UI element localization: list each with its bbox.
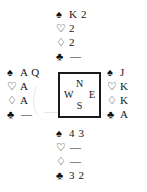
south-diamonds-row: ♢ —: [56, 154, 85, 168]
north-hearts-cards: 2: [67, 23, 75, 34]
club-icon: ♣: [7, 109, 18, 120]
east-spades-row: ♠ J: [107, 65, 129, 79]
north-diamonds-row: ♢ 2: [56, 35, 87, 49]
spade-icon: ♠: [107, 67, 118, 78]
compass-label-north: N: [76, 79, 83, 89]
hand-south: ♠ 4 3 ♡ — ♢ — ♣ 3 2: [56, 126, 85, 182]
north-clubs-cards: —: [67, 51, 81, 62]
diamond-icon: ♢: [7, 95, 18, 106]
south-hearts-row: ♡ —: [56, 140, 85, 154]
east-hearts-cards: K: [118, 81, 129, 92]
compass-inner: N W E S: [60, 74, 99, 116]
scan-artifact-line: [44, 112, 58, 113]
heart-icon: ♡: [107, 81, 118, 92]
east-clubs-row: ♣ A: [107, 107, 129, 121]
east-diamonds-row: ♢ K: [107, 93, 129, 107]
south-clubs-row: ♣ 3 2: [56, 168, 85, 182]
north-spades-cards: K 2: [67, 9, 87, 20]
west-spades-row: ♠ A Q: [7, 65, 40, 79]
compass-box: N W E S: [58, 72, 101, 118]
west-spades-cards: A Q: [18, 67, 40, 78]
south-hearts-cards: —: [67, 142, 81, 153]
diamond-icon: ♢: [56, 156, 67, 167]
west-hearts-row: ♡ A: [7, 79, 40, 93]
north-spades-row: ♠ K 2: [56, 7, 87, 21]
heart-icon: ♡: [7, 81, 18, 92]
north-diamonds-cards: 2: [67, 37, 75, 48]
east-spades-cards: J: [118, 67, 125, 78]
compass-label-west: W: [64, 90, 73, 100]
club-icon: ♣: [56, 51, 67, 62]
heart-icon: ♡: [56, 23, 67, 34]
club-icon: ♣: [56, 170, 67, 181]
diamond-icon: ♢: [56, 37, 67, 48]
club-icon: ♣: [107, 109, 118, 120]
west-hearts-cards: A: [18, 81, 29, 92]
diamond-icon: ♢: [107, 95, 118, 106]
east-diamonds-cards: K: [118, 95, 129, 106]
spade-icon: ♠: [7, 67, 18, 78]
south-diamonds-cards: —: [67, 156, 81, 167]
compass-label-south: S: [77, 101, 83, 111]
compass-label-east: E: [89, 90, 95, 100]
east-clubs-cards: A: [118, 109, 129, 120]
hand-east: ♠ J ♡ K ♢ K ♣ A: [107, 65, 129, 121]
west-clubs-row: ♣ —: [7, 107, 40, 121]
west-diamonds-cards: A: [18, 95, 29, 106]
north-clubs-row: ♣ —: [56, 49, 87, 63]
north-hearts-row: ♡ 2: [56, 21, 87, 35]
spade-icon: ♠: [56, 9, 67, 20]
hand-west: ♠ A Q ♡ A ♢ A ♣ —: [7, 65, 40, 121]
west-clubs-cards: —: [18, 109, 32, 120]
spade-icon: ♠: [56, 128, 67, 139]
heart-icon: ♡: [56, 142, 67, 153]
south-clubs-cards: 3 2: [67, 170, 85, 181]
south-spades-row: ♠ 4 3: [56, 126, 85, 140]
south-spades-cards: 4 3: [67, 128, 85, 139]
west-diamonds-row: ♢ A: [7, 93, 40, 107]
east-hearts-row: ♡ K: [107, 79, 129, 93]
hand-north: ♠ K 2 ♡ 2 ♢ 2 ♣ —: [56, 7, 87, 63]
